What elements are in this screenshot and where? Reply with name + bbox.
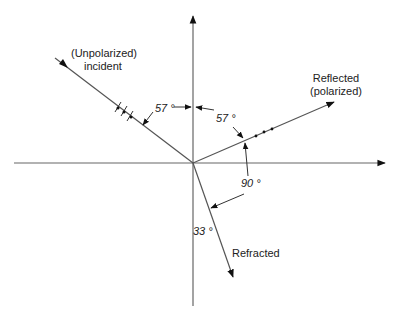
incident-label-line2: incident bbox=[84, 60, 122, 72]
refracted-label: Refracted bbox=[232, 247, 280, 259]
reflected-label-line1: Reflected bbox=[313, 72, 359, 84]
incident-polarization-dots bbox=[117, 107, 133, 119]
incident-angle-pointer bbox=[143, 112, 153, 125]
incident-angle-label: 57 ° bbox=[155, 102, 175, 114]
incident-arrow-icon bbox=[59, 59, 68, 68]
ninety-pointer-refracted bbox=[211, 194, 244, 208]
brewster-diagram: (Unpolarized) incident Reflected (polari… bbox=[0, 0, 399, 321]
reflected-label-line2: (polarized) bbox=[310, 85, 362, 97]
ninety-pointer-up bbox=[245, 143, 248, 176]
reflected-normal-pointer bbox=[196, 107, 214, 110]
reflected-angle-pointer bbox=[233, 127, 243, 138]
refracted-ray bbox=[193, 163, 233, 277]
incident-label-line1: (Unpolarized) bbox=[71, 47, 137, 59]
refracted-angle-label: 33 ° bbox=[193, 225, 213, 237]
reflected-angle-label: 57 ° bbox=[216, 112, 236, 124]
right-angle-label: 90 ° bbox=[241, 177, 261, 189]
